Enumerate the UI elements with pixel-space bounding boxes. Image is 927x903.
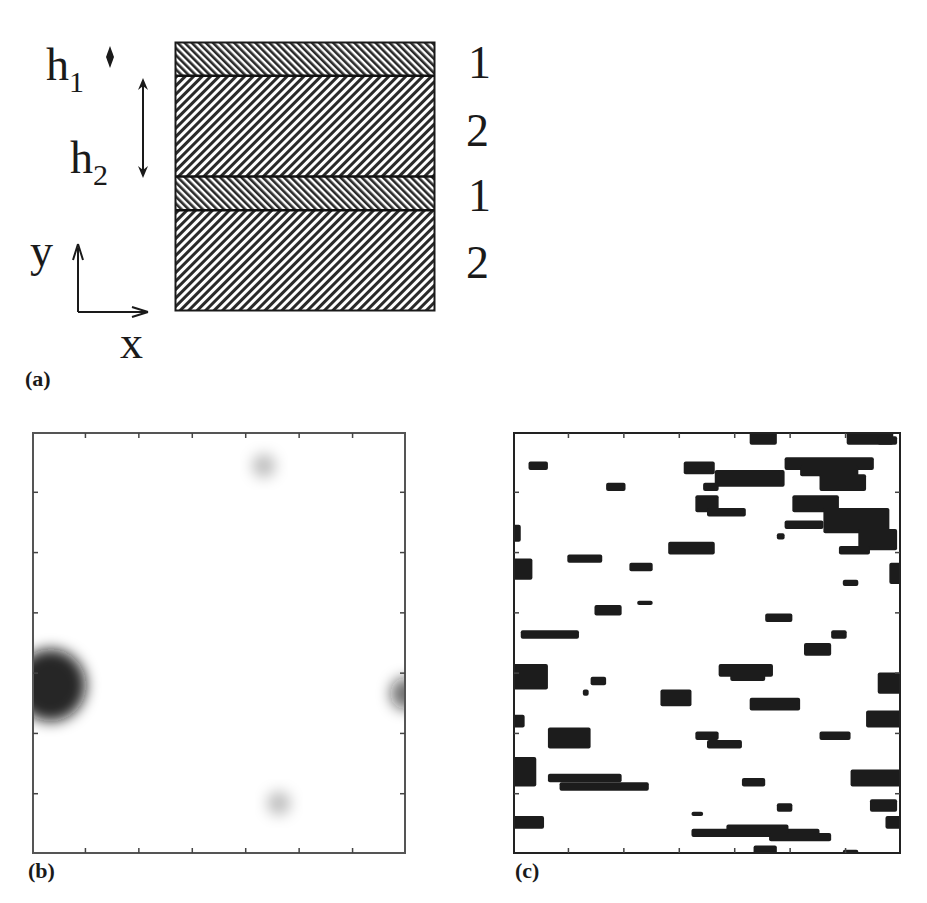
layer-label-3: 1: [468, 173, 491, 219]
cluster: [567, 554, 602, 562]
cluster: [591, 677, 607, 685]
intensity-spot: [252, 454, 276, 478]
layer-4-material-2: [175, 210, 435, 311]
cluster: [726, 824, 788, 832]
cluster: [851, 770, 901, 787]
cluster: [548, 727, 591, 748]
cluster: [870, 799, 897, 812]
cluster: [878, 673, 901, 694]
layer-label-1: 1: [468, 40, 491, 86]
cluster: [707, 740, 742, 748]
cluster: [831, 630, 847, 638]
cluster: [820, 732, 851, 740]
cluster: [715, 470, 785, 487]
cluster: [660, 689, 691, 706]
cluster: [594, 605, 621, 616]
h1-arrow-icon: [104, 44, 116, 70]
intensity-map: [32, 432, 408, 856]
h2-label: h2: [70, 135, 108, 181]
cluster: [583, 689, 589, 695]
cluster: [777, 533, 785, 539]
cluster: [777, 803, 793, 811]
cluster: [560, 782, 649, 790]
cluster: [691, 812, 703, 816]
cluster: [885, 816, 901, 829]
intensity-spot: [267, 791, 291, 815]
h2-arrow-icon: [136, 78, 150, 178]
cluster: [548, 774, 622, 782]
layer-3-material-1: [175, 177, 435, 211]
layer-label-4: 2: [466, 240, 489, 286]
cluster: [804, 643, 831, 656]
axes-arrows-icon: [70, 244, 150, 316]
cluster: [785, 521, 824, 529]
cluster: [730, 673, 765, 681]
layer-stack: [175, 42, 437, 312]
y-axis-label: y: [30, 228, 53, 274]
cluster: [513, 559, 532, 580]
cluster: [769, 833, 831, 841]
cluster: [878, 436, 897, 444]
cluster: [820, 474, 867, 491]
cluster-map: [513, 432, 903, 856]
cluster: [742, 778, 765, 786]
cluster: [750, 698, 800, 711]
layer-2-material-2: [175, 76, 435, 177]
panel-c-tag: (c): [515, 858, 539, 884]
cluster: [637, 601, 653, 605]
layer-1-material-1: [175, 42, 435, 76]
cluster: [513, 757, 536, 787]
layer-label-2: 2: [466, 108, 489, 154]
panel-a-tag: (a): [25, 366, 51, 392]
cluster: [866, 711, 901, 728]
h1-label: h1: [46, 42, 84, 88]
cluster: [684, 462, 715, 475]
panel-b-tag: (b): [28, 858, 55, 884]
cluster: [513, 664, 548, 689]
cluster: [695, 732, 718, 740]
cluster: [513, 816, 544, 829]
cluster: [668, 542, 715, 555]
cluster: [606, 483, 625, 491]
cluster: [765, 613, 792, 621]
cluster: [529, 462, 548, 470]
cluster: [703, 483, 719, 491]
cluster: [843, 580, 859, 586]
cluster: [839, 546, 870, 554]
cluster: [521, 630, 579, 638]
intensity-spot: [15, 649, 86, 721]
cluster: [707, 508, 746, 516]
cluster: [629, 563, 652, 571]
x-axis-label: x: [120, 320, 143, 366]
